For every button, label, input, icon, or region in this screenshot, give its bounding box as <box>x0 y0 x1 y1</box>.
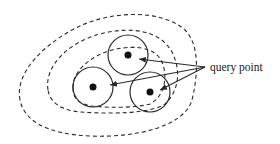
centroid-dot-top <box>125 52 132 59</box>
centroid-dot-left <box>90 84 97 91</box>
arrow-to-top-icon <box>139 59 205 67</box>
centroid-dot-right <box>147 89 154 96</box>
arrow-to-left-icon <box>110 67 205 85</box>
outer-dashed-contour <box>19 15 196 137</box>
arrow-to-right-icon <box>160 67 205 90</box>
query-point-diagram: query point <box>0 0 280 144</box>
query-point-label: query point <box>210 61 264 74</box>
